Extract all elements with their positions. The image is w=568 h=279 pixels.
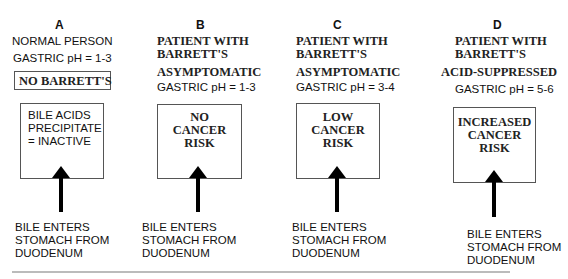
gastric-ph: GASTRIC pH = 1-3 (157, 81, 256, 94)
outcome-line: RISK (454, 142, 535, 155)
bile-source-text: BILE ENTERS STOMACH FROM DUODENUM (142, 221, 236, 260)
gastric-ph: GASTRIC pH = 1-3 (13, 52, 112, 65)
outcome-line: PRECIPITATE (28, 122, 103, 135)
gastric-ph: GASTRIC pH = 5-6 (455, 83, 554, 96)
panel-subject: PATIENT WITH BARRETT'S (455, 35, 547, 61)
outcome-line: BILE ACIDS (28, 109, 103, 122)
panel-letter: D (493, 18, 502, 32)
panel-letter: B (196, 18, 205, 32)
panel-letter: A (55, 18, 64, 32)
bile-source-text: BILE ENTERS STOMACH FROM DUODENUM (292, 221, 386, 260)
gastric-ph: GASTRIC pH = 3-4 (296, 81, 395, 94)
diagram-canvas: A NORMAL PERSON GASTRIC pH = 1-3 NO BARR… (0, 0, 568, 279)
panel-condition: ASYMPTOMATIC (157, 66, 261, 79)
no-barretts-label: NO BARRETT'S (14, 71, 111, 90)
bottom-divider (12, 271, 510, 273)
panel-condition: ASYMPTOMATIC (296, 66, 400, 79)
bile-source-text: BILE ENTERS STOMACH FROM DUODENUM (15, 221, 109, 260)
panel-letter: C (333, 18, 342, 32)
panel-condition: ACID-SUPPRESSED (441, 66, 557, 79)
panel-subject: PATIENT WITH BARRETT'S (296, 35, 388, 61)
outcome-line: RISK (297, 137, 379, 150)
bile-source-text: BILE ENTERS STOMACH FROM DUODENUM (467, 228, 561, 267)
panel-subject: PATIENT WITH BARRETT'S (157, 35, 249, 61)
outcome-line: = INACTIVE (28, 135, 103, 148)
panel-subject: NORMAL PERSON (12, 35, 113, 48)
outcome-line: RISK (158, 137, 241, 150)
